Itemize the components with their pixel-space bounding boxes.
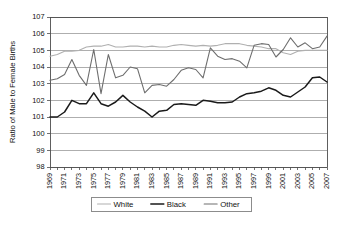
chart-legend: WhiteBlackOther (92, 197, 252, 211)
x-tick-label: 2007 (322, 173, 331, 189)
x-tick-label: 1975 (89, 173, 98, 189)
y-tick-label: 100 (32, 129, 44, 138)
y-tick-label: 107 (32, 12, 44, 21)
gridlines-group (50, 17, 327, 167)
x-tick-label: 1969 (45, 173, 54, 189)
y-tick-label: 105 (32, 46, 44, 55)
x-tick-label: 1973 (74, 173, 83, 189)
line-chart: 9899100101102103104105106107 19691971197… (0, 0, 343, 225)
y-axis-tick-labels: 9899100101102103104105106107 (32, 12, 44, 171)
x-tick-label: 1987 (176, 173, 185, 189)
legend-label-black: Black (167, 200, 186, 209)
y-tick-label: 106 (32, 29, 44, 38)
x-tick-label: 1989 (191, 173, 200, 189)
x-tick-label: 2001 (278, 173, 287, 189)
legend-label-white: White (114, 200, 134, 209)
series-line-black (50, 77, 327, 117)
x-tick-label: 1981 (132, 173, 141, 189)
x-tick-label: 1997 (249, 173, 258, 189)
x-tick-label: 2003 (293, 173, 302, 189)
x-axis-tick-labels: 1969197119731975197719791981198319851987… (45, 173, 331, 189)
x-tick-label: 2005 (307, 173, 316, 189)
x-tick-label: 1977 (103, 173, 112, 189)
x-tick-label: 1991 (205, 173, 214, 189)
x-tick-label: 1993 (220, 173, 229, 189)
y-tick-label: 101 (32, 112, 44, 121)
x-tick-label: 1985 (162, 173, 171, 189)
y-tick-label: 98 (36, 162, 44, 171)
y-tick-label: 102 (32, 96, 44, 105)
x-tick-label: 1971 (59, 173, 68, 189)
legend-label-other: Other (220, 200, 240, 209)
x-tick-label: 1995 (234, 173, 243, 189)
data-series-group (50, 36, 327, 117)
x-tick-label: 1979 (118, 173, 127, 189)
x-tick-label: 1983 (147, 173, 156, 189)
y-axis-title-text: Ratio of Male to Female Births (8, 41, 17, 143)
y-tick-label: 103 (32, 79, 44, 88)
y-tick-label: 104 (32, 62, 44, 71)
y-axis-title: Ratio of Male to Female Births (8, 41, 17, 143)
y-tick-label: 99 (36, 146, 44, 155)
x-tick-label: 1999 (264, 173, 273, 189)
axes-group (47, 17, 327, 170)
chart-figure: 9899100101102103104105106107 19691971197… (0, 0, 343, 225)
